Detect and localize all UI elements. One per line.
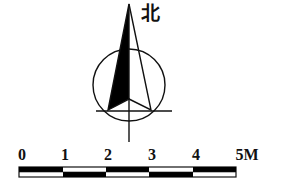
scale-tick-4: 4 bbox=[192, 147, 200, 163]
scale-tick-0: 0 bbox=[18, 147, 26, 163]
scale-seg-2-bottom bbox=[63, 172, 106, 177]
scale-seg-5-top bbox=[193, 167, 236, 172]
north-label: 北 bbox=[141, 4, 160, 23]
scale-tick-2: 2 bbox=[104, 147, 112, 163]
scale-tick-5: 5M bbox=[235, 147, 258, 163]
scale-tick-3: 3 bbox=[148, 147, 156, 163]
scale-seg-4-bottom bbox=[149, 172, 193, 177]
scale-seg-1-top bbox=[19, 167, 63, 172]
scale-bar bbox=[19, 167, 236, 177]
scale-tick-1: 1 bbox=[61, 147, 69, 163]
arrow-left-half-filled bbox=[108, 4, 129, 110]
north-arrow-and-scale-diagram bbox=[0, 0, 286, 196]
north-arrow-icon bbox=[93, 4, 172, 142]
scale-seg-3-top bbox=[106, 167, 149, 172]
